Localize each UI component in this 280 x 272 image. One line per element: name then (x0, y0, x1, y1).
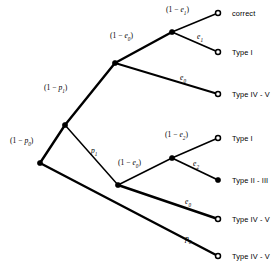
leaf-type-i-upper-label: Type I (232, 49, 253, 56)
label-e1-subscript: 1 (200, 37, 203, 43)
leaf-type-i-lower (216, 136, 221, 141)
branch-node-e1 (169, 29, 174, 34)
leaf-type-i-lower-label: Type I (232, 135, 253, 142)
label-1-minus-p0-suffix: ) (31, 136, 34, 145)
edge-e0-upper (115, 63, 218, 94)
root-node (37, 160, 42, 165)
label-1-minus-e1-prefix: (1 − (166, 5, 180, 14)
label-1-minus-p1: (1 − p1) (44, 84, 67, 94)
edge-1-minus-e1 (172, 13, 218, 32)
branch-node-e0-upper (112, 60, 117, 65)
label-1-minus-e0-upper: (1 − e0) (110, 32, 133, 42)
leaf-type-i-upper (216, 50, 221, 55)
label-1-minus-e2-prefix: (1 − (165, 130, 179, 139)
branch-node-p1 (62, 122, 67, 127)
probability-tree-diagram: correctType IType IV - VType IType II - … (0, 0, 280, 272)
label-e0-upper: e0 (180, 74, 186, 84)
label-e0-upper-subscript: 0 (183, 78, 186, 84)
label-1-minus-e1: (1 − e1) (166, 6, 189, 16)
label-e2: e2 (193, 160, 199, 170)
label-1-minus-e0-upper-suffix: ) (130, 31, 133, 40)
edge-1-minus-e2 (172, 138, 218, 158)
label-1-minus-e1-suffix: ) (186, 5, 189, 14)
branch-node-e0-lower (115, 182, 120, 187)
label-1-minus-e0-lower-prefix: (1 − (118, 158, 132, 167)
nodes-group (37, 11, 220, 259)
label-p0-subscript: 0 (189, 239, 192, 245)
label-1-minus-p0-prefix: (1 − (10, 136, 24, 145)
edge-1-minus-p0 (40, 125, 65, 163)
label-1-minus-e0-lower: (1 − e0) (118, 159, 141, 169)
label-e0-lower-subscript: 0 (188, 202, 191, 208)
leaf-type-iv-v-2 (216, 217, 221, 222)
label-1-minus-p1-suffix: ) (65, 83, 68, 92)
label-1-minus-p0: (1 − p0) (10, 137, 33, 147)
leaf-type-iv-v-1 (216, 92, 221, 97)
label-1-minus-e2-suffix: ) (185, 130, 188, 139)
label-p0: p0 (185, 235, 191, 245)
label-e0-lower: e0 (185, 198, 191, 208)
leaf-type-ii-iii (215, 177, 220, 182)
edge-e1 (172, 32, 218, 52)
branch-node-e2 (169, 155, 174, 160)
leaf-type-iv-v-2-label: Type IV - V (232, 216, 270, 223)
label-1-minus-p1-prefix: (1 − (44, 83, 58, 92)
label-p1: p1 (91, 147, 97, 157)
edges-group (40, 13, 218, 256)
label-1-minus-e2: (1 − e2) (165, 131, 188, 141)
leaf-type-iv-v-1-label: Type IV - V (232, 91, 270, 98)
label-p1-subscript: 1 (95, 151, 98, 157)
leaf-correct-label: correct (232, 10, 255, 17)
leaf-type-iv-v-3 (216, 254, 221, 259)
leaf-type-iv-v-3-label: Type IV - V (232, 253, 270, 260)
edge-1-minus-p1 (65, 63, 115, 125)
label-1-minus-e0-upper-prefix: (1 − (110, 31, 124, 40)
label-e1: e1 (197, 33, 203, 43)
label-e2-subscript: 2 (196, 164, 199, 170)
label-1-minus-e0-lower-suffix: ) (138, 158, 141, 167)
leaf-correct (216, 11, 221, 16)
edge-e0-lower (118, 185, 218, 219)
leaf-type-ii-iii-label: Type II - III (232, 177, 268, 184)
